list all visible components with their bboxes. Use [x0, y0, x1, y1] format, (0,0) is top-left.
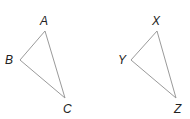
vertex-label-c: C — [63, 102, 72, 116]
triangle-abc: A B C — [5, 14, 72, 116]
triangle-abc-shape — [20, 31, 65, 98]
diagram-canvas: A B C X Y Z — [0, 0, 190, 119]
triangle-xyz-shape — [131, 31, 176, 98]
vertex-label-a: A — [39, 14, 48, 28]
vertex-label-z: Z — [173, 102, 182, 116]
vertex-label-x: X — [151, 14, 161, 28]
triangle-xyz: X Y Z — [118, 14, 182, 116]
vertex-label-b: B — [5, 53, 13, 67]
vertex-label-y: Y — [118, 53, 127, 67]
